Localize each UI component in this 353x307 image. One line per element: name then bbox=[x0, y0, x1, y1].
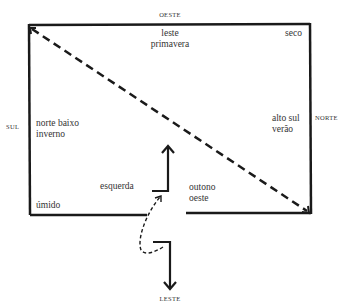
direction-label-top: OESTE bbox=[150, 9, 190, 20]
direction-label-left: SUL bbox=[6, 121, 19, 132]
down-arrow-icon bbox=[153, 242, 176, 289]
region-top-right: seco bbox=[285, 28, 302, 39]
region-top-center-line1: leste bbox=[140, 28, 200, 39]
direction-label-right: NORTE bbox=[315, 112, 338, 123]
region-bottom-left: úmido bbox=[36, 200, 60, 211]
up-arrow-icon bbox=[152, 146, 174, 191]
region-center-right-line1: outono bbox=[189, 182, 215, 193]
curved-dashed-arrow-icon bbox=[140, 196, 163, 253]
region-right-middle-line2: verão bbox=[272, 124, 300, 135]
region-left-middle-line1: norte baixo bbox=[36, 118, 79, 129]
region-top-center: leste primavera bbox=[140, 28, 200, 50]
region-center-left: esquerda bbox=[100, 181, 134, 192]
direction-label-bottom: LESTE bbox=[150, 293, 190, 304]
region-center-right: outono oeste bbox=[189, 182, 215, 204]
region-right-middle: alto sul verão bbox=[272, 113, 300, 135]
region-center-right-line2: oeste bbox=[189, 193, 215, 204]
region-left-middle: norte baixo inverno bbox=[36, 118, 79, 140]
region-right-middle-line1: alto sul bbox=[272, 113, 300, 124]
region-left-middle-line2: inverno bbox=[36, 129, 79, 140]
region-top-center-line2: primavera bbox=[140, 39, 200, 50]
diagram-canvas: OESTE LESTE SUL NORTE leste primavera se… bbox=[0, 0, 353, 307]
